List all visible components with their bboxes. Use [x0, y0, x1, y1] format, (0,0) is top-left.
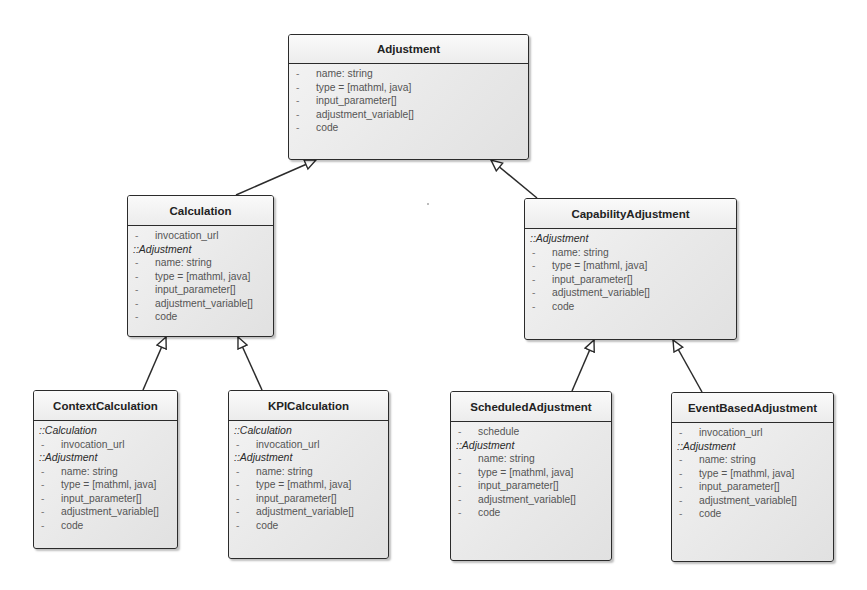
attribute: -adjustment_variable[] [39, 505, 177, 519]
inherited-section-title: ::Adjustment [456, 439, 611, 453]
class-title: Adjustment [289, 35, 528, 64]
edge-context-to-calculation [143, 337, 166, 390]
class-capability-adjustment[interactable]: CapabilityAdjustment ::Adjustment -name:… [524, 198, 737, 340]
attribute: -type = [mathml, java] [530, 259, 736, 273]
inherited-section-title: ::Calculation [234, 424, 388, 438]
edge-scheduled-to-capability [572, 340, 594, 391]
attribute: -type = [mathml, java] [133, 270, 273, 284]
class-title: ContextCalculation [34, 391, 177, 421]
attribute: -type = [mathml, java] [294, 81, 528, 95]
class-scheduled-adjustment[interactable]: ScheduledAdjustment -schedule ::Adjustme… [450, 391, 612, 561]
attribute: -adjustment_variable[] [294, 108, 528, 122]
attribute: -adjustment_variable[] [234, 505, 388, 519]
attribute-section: ::Calculation -invocation_url ::Adjustme… [34, 421, 177, 532]
inherited-section-title: ::Adjustment [530, 232, 736, 246]
class-kpi-calculation[interactable]: KPICalculation ::Calculation -invocation… [228, 390, 389, 559]
attribute: -invocation_url [39, 438, 177, 452]
attribute: -adjustment_variable[] [677, 494, 833, 508]
edge-eventbased-to-capability [673, 340, 702, 392]
attribute: -code [530, 300, 736, 314]
attribute: -invocation_url [133, 229, 273, 243]
attribute: -input_parameter[] [234, 492, 388, 506]
attribute: -input_parameter[] [456, 479, 611, 493]
attribute: -invocation_url [234, 438, 388, 452]
inherited-section-title: ::Adjustment [133, 243, 273, 257]
attribute: -name: string [39, 465, 177, 479]
attribute-section: -invocation_url ::Adjustment -name: stri… [128, 226, 273, 324]
attribute: -input_parameter[] [677, 480, 833, 494]
attribute: -adjustment_variable[] [133, 297, 273, 311]
attribute: -type = [mathml, java] [456, 466, 611, 480]
class-title: KPICalculation [229, 391, 388, 421]
attribute: -code [294, 121, 528, 135]
class-title: Calculation [128, 196, 273, 226]
stray-dot [427, 203, 429, 205]
inherited-section-title: ::Adjustment [677, 440, 833, 454]
attribute: -input_parameter[] [133, 283, 273, 297]
attribute: -name: string [234, 465, 388, 479]
attribute: -schedule [456, 425, 611, 439]
edge-capability-to-adjustment [491, 160, 537, 198]
edge-kpi-to-calculation [238, 337, 262, 390]
attribute: -code [39, 519, 177, 533]
attribute: -code [677, 507, 833, 521]
attribute-section: ::Adjustment -name: string -type = [math… [525, 229, 736, 313]
class-title: ScheduledAdjustment [451, 392, 611, 422]
class-calculation[interactable]: Calculation -invocation_url ::Adjustment… [127, 195, 274, 337]
inherited-section-title: ::Calculation [39, 424, 177, 438]
attribute: -type = [mathml, java] [234, 478, 388, 492]
attribute: -name: string [456, 452, 611, 466]
attribute: -code [456, 506, 611, 520]
attribute: -name: string [133, 256, 273, 270]
attribute-section: -name: string -type = [mathml, java] -in… [289, 64, 528, 135]
attribute: -type = [mathml, java] [39, 478, 177, 492]
attribute: -input_parameter[] [530, 273, 736, 287]
attribute-section: -schedule ::Adjustment -name: string -ty… [451, 422, 611, 520]
attribute: -name: string [530, 246, 736, 260]
attribute: -name: string [294, 67, 528, 81]
class-context-calculation[interactable]: ContextCalculation ::Calculation -invoca… [33, 390, 178, 549]
attribute: -code [133, 310, 273, 324]
attribute: -input_parameter[] [39, 492, 177, 506]
class-event-based-adjustment[interactable]: EventBasedAdjustment -invocation_url ::A… [671, 392, 834, 562]
attribute: -invocation_url [677, 426, 833, 440]
attribute: -name: string [677, 453, 833, 467]
attribute: -input_parameter[] [294, 94, 528, 108]
attribute: -type = [mathml, java] [677, 467, 833, 481]
inherited-section-title: ::Adjustment [234, 451, 388, 465]
attribute-section: -invocation_url ::Adjustment -name: stri… [672, 423, 833, 521]
attribute-section: ::Calculation -invocation_url ::Adjustme… [229, 421, 388, 532]
attribute: -code [234, 519, 388, 533]
class-title: CapabilityAdjustment [525, 199, 736, 229]
inherited-section-title: ::Adjustment [39, 451, 177, 465]
class-adjustment[interactable]: Adjustment -name: string -type = [mathml… [288, 34, 529, 160]
attribute: -adjustment_variable[] [456, 493, 611, 507]
attribute: -adjustment_variable[] [530, 286, 736, 300]
edge-calculation-to-adjustment [236, 160, 316, 195]
class-title: EventBasedAdjustment [672, 393, 833, 423]
